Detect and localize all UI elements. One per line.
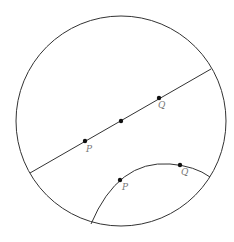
point-dot — [119, 119, 123, 123]
point-label-p: P — [121, 182, 129, 192]
point-dot — [83, 139, 87, 143]
points-group: PQPQ — [83, 96, 189, 192]
hyperbolic-geodesic-arc — [91, 164, 210, 224]
poincare-disk-diagram: PQPQ — [0, 0, 234, 242]
point-label-q: Q — [158, 100, 166, 110]
point-label-p: P — [85, 144, 93, 154]
point-label-q: Q — [181, 167, 189, 177]
